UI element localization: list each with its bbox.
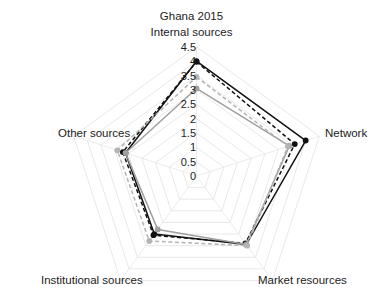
series-marker-gray-dashed [114,147,120,153]
series-marker-gray-dashed [244,243,250,249]
radial-tick-2.5: 2.5 [181,98,196,110]
series-marker-gray-dashed [146,238,152,244]
series-marker-black-solid [303,138,309,144]
series-marker-gray-solid [155,227,161,233]
radial-tick-3.5: 3.5 [181,70,196,82]
radar-chart-canvas: Ghana 2015 Internal sources Network Mark… [0,0,383,302]
radial-tick-3: 3 [190,84,196,96]
radial-tick-1.5: 1.5 [181,127,196,139]
radial-tick-4.5: 4.5 [181,41,196,53]
radial-tick-0: 0 [190,170,196,182]
axis-label-other-sources: Other sources [58,127,130,139]
axis-label-network: Network [325,127,367,139]
radial-tick-0.5: 0.5 [181,156,196,168]
radar-grid [74,47,320,281]
axis-label-internal-sources: Internal sources [151,26,233,38]
chart-title: Ghana 2015 [160,10,223,22]
axis-label-institutional-sources: Institutional sources [41,274,143,286]
radial-tick-labels: 00.511.522.533.544.5 [181,41,196,182]
series-marker-gray-dashed [285,143,291,149]
radar-chart-figure: Ghana 2015 Internal sources Network Mark… [0,0,383,302]
series-marker-black-dashed [292,141,298,147]
grid-spoke [197,176,273,280]
axis-label-market-resources: Market resources [258,274,347,286]
radial-tick-1: 1 [190,141,196,153]
series-marker-gray-solid [123,150,129,156]
radial-tick-2: 2 [190,113,196,125]
radial-tick-4: 4 [190,55,196,67]
series-marker-black-dashed [151,232,157,238]
